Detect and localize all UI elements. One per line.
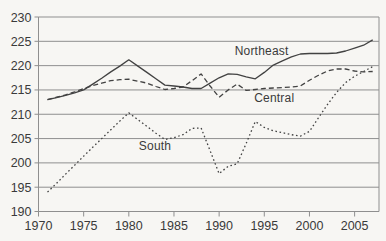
series-line-northeast bbox=[48, 40, 373, 100]
x-tick-label: 1970 bbox=[25, 219, 53, 233]
series-label-central: Central bbox=[254, 91, 294, 105]
chart-canvas: 2302252202152102052001951901970197519801… bbox=[0, 0, 386, 241]
y-tick-label: 195 bbox=[11, 181, 32, 195]
y-tick-label: 225 bbox=[11, 35, 32, 49]
x-tick-label: 1985 bbox=[160, 219, 188, 233]
series-line-central bbox=[48, 69, 373, 100]
series-label-south: South bbox=[139, 139, 171, 153]
y-tick-label: 210 bbox=[11, 108, 32, 122]
x-tick-label: 2005 bbox=[341, 219, 369, 233]
y-tick-label: 205 bbox=[11, 132, 32, 146]
x-tick-label: 2000 bbox=[296, 219, 324, 233]
series-label-northeast: Northeast bbox=[235, 44, 289, 58]
y-tick-label: 215 bbox=[11, 83, 32, 97]
x-tick-label: 1990 bbox=[205, 219, 233, 233]
x-tick-label: 1980 bbox=[115, 219, 143, 233]
x-tick-label: 1995 bbox=[250, 219, 278, 233]
x-tick-label: 1975 bbox=[70, 219, 98, 233]
y-tick-label: 230 bbox=[11, 11, 32, 25]
regional-line-chart-figure: 2302252202152102052001951901970197519801… bbox=[0, 0, 386, 241]
y-tick-label: 190 bbox=[11, 205, 32, 219]
y-tick-label: 200 bbox=[11, 156, 32, 170]
y-tick-label: 220 bbox=[11, 59, 32, 73]
